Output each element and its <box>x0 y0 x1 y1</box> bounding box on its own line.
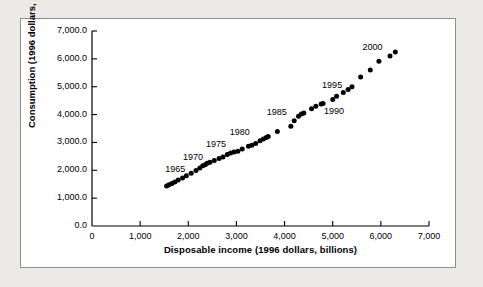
y-axis-ticks <box>92 31 97 198</box>
data-point <box>334 94 339 99</box>
data-point <box>368 68 373 73</box>
data-point <box>266 134 271 139</box>
data-point <box>253 141 258 146</box>
data-point <box>240 147 245 152</box>
scatter-chart: Consumption (1996 dollars, billions) Dis… <box>0 0 483 287</box>
data-point <box>212 158 217 163</box>
data-point <box>330 97 335 102</box>
data-point <box>184 173 189 178</box>
data-point <box>358 74 363 79</box>
data-point <box>349 84 354 89</box>
data-points <box>164 49 398 188</box>
data-point <box>309 106 314 111</box>
data-point <box>341 90 346 95</box>
data-point <box>220 154 225 159</box>
data-point <box>189 171 194 176</box>
data-point <box>301 110 306 115</box>
data-point <box>207 160 212 165</box>
data-point <box>292 118 297 123</box>
x-axis-ticks <box>140 221 429 226</box>
data-point <box>275 129 280 134</box>
data-point <box>235 149 240 154</box>
data-point <box>313 104 318 109</box>
data-point <box>376 59 381 64</box>
data-point <box>388 54 393 59</box>
data-point <box>393 49 398 54</box>
data-point <box>176 178 181 183</box>
data-point <box>288 124 293 129</box>
plot-canvas <box>0 0 483 287</box>
data-point <box>321 101 326 106</box>
